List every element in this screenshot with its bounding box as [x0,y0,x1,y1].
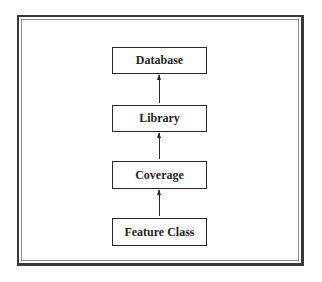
arrow-coverage-to-library [159,133,160,159]
node-database-label: Database [136,53,183,68]
arrow-library-to-database [159,75,160,103]
node-library-label: Library [139,111,180,126]
node-database: Database [112,47,207,74]
node-feature-class-label: Feature Class [124,225,194,240]
arrow-featureclass-to-coverage [159,190,160,216]
node-coverage-label: Coverage [135,168,184,183]
node-library: Library [112,105,207,132]
node-feature-class: Feature Class [112,218,207,246]
node-coverage: Coverage [112,161,207,189]
